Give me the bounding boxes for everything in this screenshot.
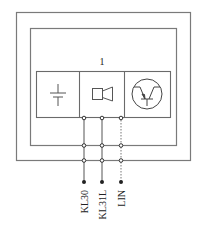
component-row — [37, 72, 171, 118]
node-kl31l-outer — [100, 159, 104, 163]
terminal-kl31l — [100, 180, 104, 184]
node-kl31l-module — [100, 116, 104, 120]
node-kl31l-inner — [100, 144, 104, 148]
terminal-dots — [82, 180, 123, 184]
terminal-lin — [119, 180, 123, 184]
terminal-label-kl30: KL30 — [79, 190, 90, 213]
speaker-icon — [93, 87, 113, 101]
node-lin-module — [119, 116, 123, 120]
node-kl30-inner — [82, 144, 86, 148]
terminal-label-lin: LIN — [116, 190, 127, 207]
node-kl30-module — [82, 116, 86, 120]
node-lin-outer — [119, 159, 123, 163]
terminal-label-kl31l: KL31L — [97, 190, 108, 219]
outer-housing-box — [17, 13, 191, 161]
wiring-diagram: 1 — [0, 0, 204, 237]
battery-icon — [50, 84, 66, 106]
module-label: 1 — [100, 56, 105, 67]
node-lin-inner — [119, 144, 123, 148]
transistor-icon — [132, 79, 162, 109]
node-kl30-outer — [82, 159, 86, 163]
terminal-kl30 — [82, 180, 86, 184]
